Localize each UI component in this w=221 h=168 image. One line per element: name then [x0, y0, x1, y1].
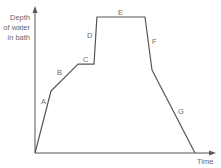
y-axis [33, 6, 38, 153]
segment-label-f: F [152, 37, 157, 46]
y-axis-arrow-icon [33, 6, 38, 13]
x-axis [35, 151, 216, 156]
depth-time-chart [0, 0, 221, 168]
segment-label-a: A [41, 97, 46, 106]
depth-line [35, 17, 195, 153]
x-axis-arrow-icon [209, 151, 216, 156]
y-axis-label-line: of water [0, 23, 30, 33]
segment-label-g: G [178, 107, 184, 116]
segment-label-b: B [57, 68, 62, 77]
y-axis-label: Depth of water in bath [0, 13, 30, 43]
x-axis-label: Time [197, 157, 213, 166]
segment-label-d: D [87, 31, 92, 40]
segment-label-c: C [83, 55, 88, 64]
y-axis-label-line: Depth [0, 13, 30, 23]
segment-label-e: E [118, 8, 123, 17]
y-axis-label-line: in bath [0, 33, 30, 43]
